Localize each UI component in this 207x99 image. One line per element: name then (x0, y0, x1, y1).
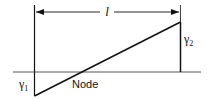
length-label: l (105, 4, 109, 19)
gamma2-label: γ2 (183, 32, 193, 48)
linear-distribution-line (35, 22, 181, 96)
node-label: Node (72, 78, 98, 90)
gamma1-label: γ1 (18, 77, 28, 93)
node-diagram: l γ2 γ1 Node (0, 0, 207, 99)
